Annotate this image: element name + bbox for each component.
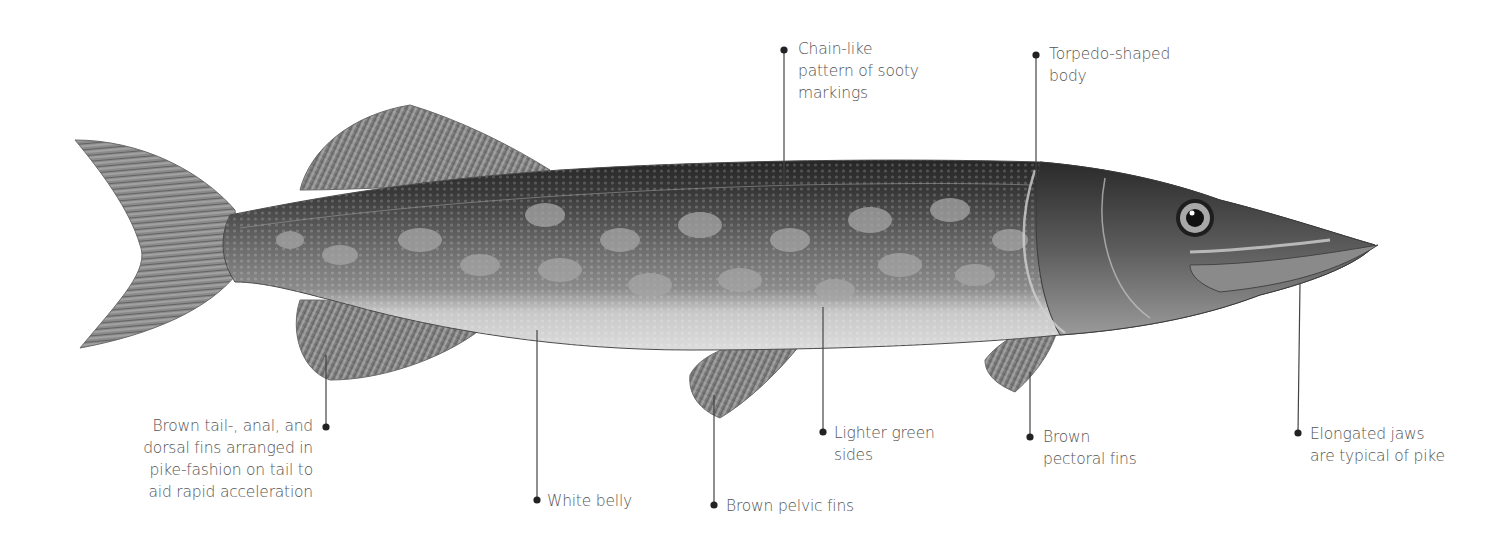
label-chain-pattern: Chain-like pattern of sooty markings	[798, 38, 919, 104]
label-torpedo-body: Torpedo-shaped body	[1049, 43, 1170, 87]
dot-pectoral-fins	[1026, 433, 1033, 440]
dot-tail-fins	[322, 423, 329, 430]
dot-lighter-sides	[819, 428, 826, 435]
fish-head	[1036, 162, 1375, 335]
label-lighter-sides: Lighter green sides	[834, 422, 935, 466]
label-pelvic-fins: Brown pelvic fins	[726, 495, 854, 517]
label-elongated-jaws: Elongated jaws are typical of pike	[1310, 423, 1445, 467]
eye	[1176, 199, 1214, 237]
dot-elongated-jaws	[1294, 429, 1301, 436]
dot-white-belly	[533, 496, 540, 503]
pike-diagram: Chain-like pattern of sooty markings Tor…	[0, 0, 1489, 537]
label-white-belly: White belly	[547, 490, 632, 512]
label-pectoral-fins: Brown pectoral fins	[1043, 426, 1137, 470]
dot-pelvic-fins	[710, 501, 717, 508]
tail-fin	[75, 140, 240, 348]
dot-chain-pattern	[780, 46, 787, 53]
label-tail-fins: Brown tail-, anal, and dorsal fins arran…	[143, 415, 313, 503]
dot-torpedo-body	[1032, 51, 1039, 58]
